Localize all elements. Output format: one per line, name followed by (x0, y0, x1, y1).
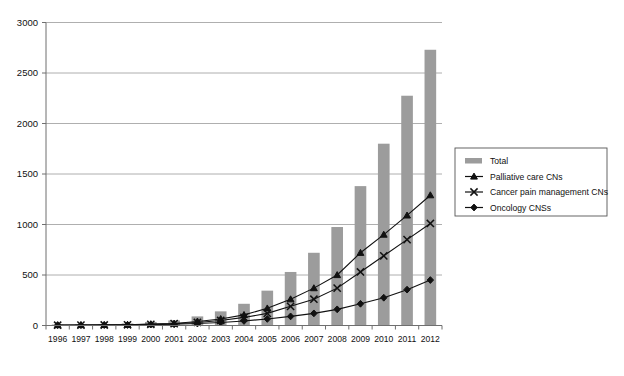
x-tick-label: 1997 (71, 334, 90, 344)
x-tick-label: 2000 (141, 334, 160, 344)
legend-label: Oncology CNSs (490, 203, 551, 213)
x-tick-label: 2009 (351, 334, 370, 344)
x-tick-label: 2004 (234, 334, 253, 344)
x-tick-label: 2005 (258, 334, 277, 344)
y-tick-label: 2000 (17, 118, 38, 129)
y-tick-label: 500 (22, 269, 38, 280)
x-tick-label: 1999 (118, 334, 137, 344)
legend-label: Palliative care CNs (490, 172, 563, 182)
y-tick-label: 3000 (17, 17, 38, 28)
chart-container: 050010001500200025003000 199619971998199… (0, 0, 624, 376)
chart-legend: TotalPalliative care CNsCancer pain mana… (455, 148, 608, 216)
y-tick-label: 0 (33, 320, 38, 331)
x-tick-label: 2006 (281, 334, 300, 344)
y-tick-label: 2500 (17, 67, 38, 78)
x-tick-label: 2007 (304, 334, 323, 344)
x-axis-tick-labels: 1996199719981999200020012002200320042005… (48, 334, 440, 344)
x-tick-label: 1998 (95, 334, 114, 344)
y-tick-label: 1000 (17, 219, 38, 230)
legend-swatch-bar (465, 158, 482, 164)
x-tick-label: 2010 (374, 334, 393, 344)
bar-series-total (52, 50, 436, 326)
y-axis-tick-labels: 050010001500200025003000 (17, 17, 46, 331)
x-tick-label: 2001 (165, 334, 184, 344)
x-tick-label: 2012 (421, 334, 440, 344)
x-tick-label: 2011 (398, 334, 417, 344)
x-tick-label: 2008 (328, 334, 347, 344)
y-tick-label: 1500 (17, 168, 38, 179)
x-tick-label: 1996 (48, 334, 67, 344)
legend-label: Total (490, 156, 508, 166)
legend-label: Cancer pain management CNs (490, 187, 608, 197)
x-tick-label: 2003 (211, 334, 230, 344)
chart-svg: 050010001500200025003000 199619971998199… (0, 0, 624, 376)
x-tick-label: 2002 (188, 334, 207, 344)
